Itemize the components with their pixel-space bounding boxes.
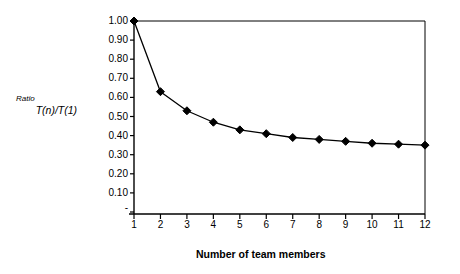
x-axis-tick-label: 12 <box>413 219 437 230</box>
data-point-marker <box>209 118 217 126</box>
y-axis-tick-label: 0.40 <box>90 130 128 141</box>
y-axis-tick-label: 0.10 <box>90 187 128 198</box>
x-axis-tick-label: 8 <box>307 219 331 230</box>
data-point-marker <box>262 130 270 138</box>
y-axis-tick-label: 0.70 <box>90 72 128 83</box>
x-axis-tick-label: 7 <box>281 219 305 230</box>
data-series-layer <box>130 17 429 149</box>
y-axis-tick-label: 0.60 <box>90 91 128 102</box>
x-axis-tick-label: 4 <box>201 219 225 230</box>
y-axis-tick-label: 0.20 <box>90 168 128 179</box>
x-axis-tick-label: 6 <box>254 219 278 230</box>
data-point-marker <box>289 134 297 142</box>
data-point-marker <box>421 141 429 149</box>
x-axis-tick-label: 9 <box>334 219 358 230</box>
x-axis-tick-label: 11 <box>387 219 411 230</box>
y-axis-tick-label: - <box>90 202 128 213</box>
data-point-marker <box>395 140 403 148</box>
x-axis-tick-label: 3 <box>175 219 199 230</box>
x-axis-tick-labels: 123456789101112 <box>0 219 460 239</box>
y-axis-title: RatioT(n)/T(1) <box>16 96 98 112</box>
y-axis-tick-label: 0.30 <box>90 149 128 160</box>
data-point-marker <box>236 126 244 134</box>
data-point-marker <box>368 139 376 147</box>
y-axis-tick-label: 0.80 <box>90 53 128 64</box>
chart-figure: RatioT(n)/T(1) 1.000.900.800.700.600.500… <box>0 0 460 274</box>
x-axis-tick-label: 5 <box>228 219 252 230</box>
x-axis-tick-label: 2 <box>148 219 172 230</box>
x-axis-title: Number of team members <box>196 248 326 260</box>
y-axis-title-prefix: Ratio <box>16 94 35 103</box>
axes-layer <box>129 21 425 219</box>
data-point-marker <box>315 135 323 143</box>
y-axis-tick-label: 0.90 <box>90 34 128 45</box>
x-axis-tick-label: 1 <box>122 219 146 230</box>
y-axis-tick-label: 1.00 <box>90 15 128 26</box>
y-axis-tick-label: 0.50 <box>90 111 128 122</box>
data-line <box>134 21 425 145</box>
data-point-marker <box>130 17 138 25</box>
data-point-marker <box>342 137 350 145</box>
y-axis-title-main: T(n)/T(1) <box>36 104 77 116</box>
x-axis-tick-label: 10 <box>360 219 384 230</box>
